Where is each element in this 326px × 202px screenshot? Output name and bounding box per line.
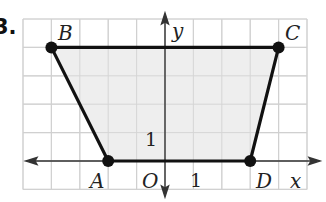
label-D: D [255, 169, 272, 193]
x-unit-label: 1 [190, 169, 202, 191]
x-axis-label: x [290, 169, 301, 193]
vertex-C-dot [273, 41, 285, 53]
y-unit-label: 1 [145, 128, 157, 150]
label-B: B [57, 21, 73, 45]
y-axis-down-arrow-icon [162, 186, 169, 197]
vertex-D-dot [244, 155, 256, 167]
vertex-B-dot [45, 41, 57, 53]
y-axis-label: y [171, 19, 184, 43]
y-axis-up-arrow-icon [162, 13, 169, 24]
label-A: A [88, 169, 104, 193]
vertex-A-dot [102, 155, 114, 167]
label-C: C [285, 21, 300, 45]
x-axis-left-arrow-icon [26, 158, 37, 165]
x-axis-right-arrow-icon [309, 158, 320, 165]
origin-label: O [142, 169, 158, 193]
coordinate-plane: B C A D y x O 1 1 [0, 0, 326, 202]
